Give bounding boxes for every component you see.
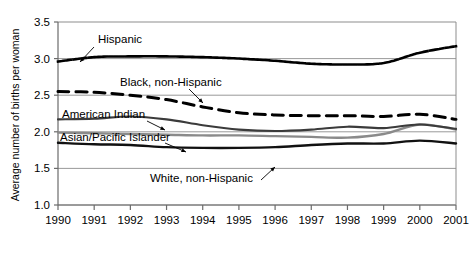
y-tick-label: 3.0 [34,53,50,65]
y-tick-label: 3.5 [34,16,50,28]
american-indian-label: American Indian [62,108,145,120]
x-tick-label: 1993 [154,214,180,226]
x-tick-label: 1997 [298,214,324,226]
x-tick-label: 1992 [118,214,144,226]
x-tick-label: 1999 [371,214,397,226]
x-tick-label: 2000 [407,214,433,226]
x-tick-label: 1996 [262,214,288,226]
hispanic-label: Hispanic [98,33,142,45]
black-non-hispanic-label: Black, non-Hispanic [120,76,222,88]
asian-pacific-islander-label: Asian/Pacific Islander [60,131,170,143]
x-tick-label: 1994 [190,214,216,226]
y-tick-label: 2.0 [34,126,50,138]
white-non-hispanic-label: White, non-Hispanic [150,172,253,184]
x-tick-label: 1998 [335,214,361,226]
y-tick-label: 1.0 [34,199,50,211]
births-per-woman-line-chart: 1.01.52.02.53.03.5 199019911992199319941… [0,0,475,258]
chart-container: 1.01.52.02.53.03.5 199019911992199319941… [0,0,475,258]
y-tick-label: 1.5 [34,162,50,174]
y-tick-label: 2.5 [34,89,50,101]
x-tick-label: 2001 [443,214,469,226]
x-tick-label: 1991 [81,214,107,226]
y-axis-title: Average number of births per woman [9,29,21,202]
x-tick-label: 1995 [226,214,252,226]
x-tick-label: 1990 [45,214,71,226]
y-axis-title-text: Average number of births per woman [9,29,21,202]
